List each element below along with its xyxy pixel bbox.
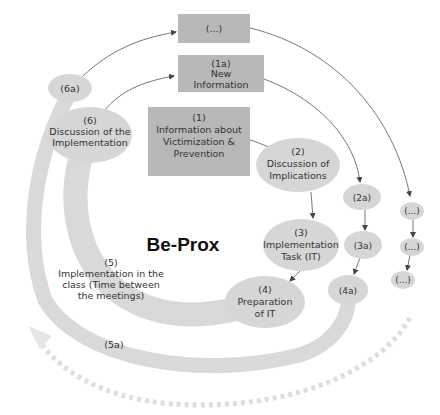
svg-text:Discussion of: Discussion of: [267, 158, 330, 169]
svg-text:New: New: [211, 68, 232, 79]
svg-text:the meetings): the meetings): [78, 290, 145, 301]
dotted-arrow-head-icon: [28, 326, 52, 350]
svg-text:(2): (2): [291, 146, 304, 157]
arrow-6-to-1a-box: [105, 76, 174, 110]
arrow-2-to-3: [311, 192, 313, 218]
svg-text:class (Time between: class (Time between: [62, 279, 160, 290]
svg-text:Task (IT): Task (IT): [280, 251, 321, 262]
svg-text:(...): (...): [404, 242, 420, 252]
node-ellipsis-2: (...): [400, 238, 424, 256]
svg-text:Implementation: Implementation: [263, 239, 338, 250]
svg-text:(4a): (4a): [339, 286, 357, 296]
arrow-e2-to-e3: [407, 255, 410, 270]
svg-text:Information about: Information about: [156, 124, 242, 135]
node-6a: (6a): [48, 74, 92, 102]
svg-text:of IT: of IT: [255, 308, 276, 319]
node-2a: (2a): [343, 184, 381, 210]
svg-text:(1): (1): [192, 112, 205, 123]
arrow-3-to-4: [290, 271, 300, 281]
svg-text:(2a): (2a): [353, 193, 371, 203]
diagram-title: Be-Prox: [147, 234, 220, 255]
svg-text:Information: Information: [194, 79, 249, 90]
svg-text:Preparation: Preparation: [238, 296, 293, 307]
node-3a: (3a): [344, 231, 382, 259]
node-ellipsis-3: (...): [391, 271, 415, 289]
svg-text:(...): (...): [404, 206, 420, 216]
svg-text:(...): (...): [395, 275, 411, 285]
svg-text:(3): (3): [294, 227, 307, 238]
node-2-discussion-implications: (2) Discussion of Implications: [256, 138, 340, 192]
svg-text:(6): (6): [83, 115, 96, 126]
box-1a-new-information: (1a) New Information: [178, 55, 264, 92]
arrow-6a-to-ellipsis-box: [82, 32, 176, 77]
svg-text:(5): (5): [104, 257, 117, 268]
node-4a: (4a): [328, 275, 368, 305]
node-5a: (5a): [104, 339, 123, 350]
svg-text:(3a): (3a): [354, 241, 372, 251]
svg-text:(6a): (6a): [60, 83, 79, 94]
svg-text:(5a): (5a): [104, 339, 123, 350]
svg-text:Implementation in the: Implementation in the: [58, 268, 164, 279]
svg-text:Victimization &: Victimization &: [163, 136, 235, 147]
node-4-preparation-it: (4) Preparation of IT: [225, 276, 305, 328]
node-3-implementation-task: (3) Implementation Task (IT): [263, 219, 339, 271]
svg-text:Discussion of the: Discussion of the: [49, 126, 130, 137]
arrow-3a-to-4a: [354, 258, 360, 274]
svg-text:Implementation: Implementation: [52, 137, 127, 148]
node-5-implementation-class: (5) Implementation in the class (Time be…: [58, 257, 164, 301]
svg-text:Prevention: Prevention: [174, 148, 225, 159]
svg-text:(4): (4): [258, 284, 271, 295]
box-ellipsis-top-label: (...): [206, 23, 222, 34]
be-prox-cycle-diagram: (...) (1a) New Information (1) Informati…: [0, 0, 440, 415]
node-6-discussion-implementation: (6) Discussion of the Implementation: [48, 107, 132, 163]
svg-text:Implications: Implications: [269, 170, 327, 181]
node-ellipsis-1: (...): [400, 202, 424, 220]
box-ellipsis-top: (...): [178, 14, 250, 43]
box-1-information-victimization: (1) Information about Victimization & Pr…: [148, 107, 250, 176]
